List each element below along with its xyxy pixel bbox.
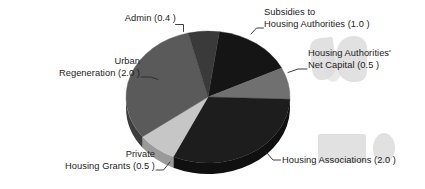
chart-canvas: Admin (0.4 ) Subsidies to Housing Author… [0, 0, 425, 189]
slice-label-housing-associations: Housing Associations (2.0 ) [282, 154, 425, 166]
pie-slices [126, 31, 290, 163]
slice-label-net-capital-line1: Housing Authorities' [308, 47, 425, 59]
slice-label-private-grants-line2: Housing Grants (0.5 ) [22, 160, 155, 172]
slice-label-admin-line1: Admin (0.4 ) [96, 12, 176, 24]
slice-label-housing-associations-line1: Housing Associations (2.0 ) [282, 154, 425, 166]
slice-label-admin: Admin (0.4 ) [96, 12, 176, 24]
leader-line-subsidies [251, 28, 264, 34]
slice-label-private-grants-line1: Private [22, 148, 155, 160]
slice-label-net-capital-line2: Net Capital (0.5 ) [308, 59, 425, 71]
slice-label-urban-regeneration: Urban Regeneration (2.0 ) [8, 55, 140, 79]
slice-label-subsidies-line2: Housing Authorities (1.0 ) [264, 18, 424, 30]
leader-line-housing-associations [266, 152, 281, 160]
slice-label-subsidies: Subsidies to Housing Authorities (1.0 ) [264, 6, 424, 30]
slice-label-private-grants: Private Housing Grants (0.5 ) [22, 148, 155, 172]
slice-label-urban-regeneration-line2: Regeneration (2.0 ) [8, 67, 140, 79]
leader-line-admin [176, 25, 184, 32]
leader-line-net-capital [288, 69, 307, 73]
slice-label-subsidies-line1: Subsidies to [264, 6, 424, 18]
slice-label-urban-regeneration-line1: Urban [8, 55, 140, 67]
slice-label-net-capital: Housing Authorities' Net Capital (0.5 ) [308, 47, 425, 71]
